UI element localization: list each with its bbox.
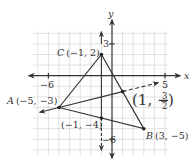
point-m xyxy=(121,90,125,94)
point-c xyxy=(100,53,104,57)
label-m: (1, − 3 2 ) xyxy=(132,91,174,111)
tick-y-3: 3 xyxy=(103,38,109,49)
coordinate-plane: y x −6 5 3 −6 C(−1, 2) A(−5, −3) B(3, −5… xyxy=(0,0,195,160)
label-b: B(3, −5) xyxy=(145,130,189,141)
svg-text:3: 3 xyxy=(162,91,167,101)
label-c: C(−1, 2) xyxy=(57,47,100,58)
x-axis-label: x xyxy=(184,70,190,81)
point-a xyxy=(57,106,61,110)
tick-x-5: 5 xyxy=(162,79,168,90)
svg-text:2: 2 xyxy=(162,101,167,111)
tick-y-neg6: −6 xyxy=(102,134,116,145)
tick-x-neg6: −6 xyxy=(40,79,54,90)
label-d: (−1, −4) xyxy=(61,119,102,130)
label-a: A(−5, −3) xyxy=(6,95,57,106)
y-axis-label: y xyxy=(107,8,114,19)
svg-text:): ) xyxy=(168,91,174,109)
